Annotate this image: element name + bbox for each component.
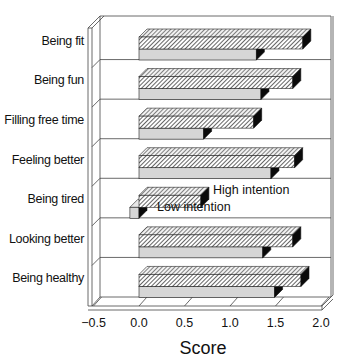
legend-low-intention: Low intention (157, 200, 231, 214)
category-label: Looking better (9, 232, 84, 246)
bar-high-intention (139, 266, 309, 286)
bar-high-intention (139, 29, 311, 49)
x-tick-label: 1.0 (221, 316, 238, 330)
category-label: Being tired (28, 192, 85, 206)
x-axis-title: Score (179, 338, 226, 358)
category-label: Being fun (34, 73, 84, 87)
category-labels: Being fitBeing funFilling free timeFeeli… (4, 34, 85, 285)
score-bar-chart: Being fitBeing funFilling free timeFeeli… (0, 0, 346, 364)
category-label: Being fit (42, 34, 85, 48)
x-tick-label: 0.0 (130, 316, 147, 330)
bar-high-intention (139, 108, 262, 128)
bar-high-intention (139, 227, 301, 247)
legend-high-intention: High intention (213, 183, 289, 197)
category-label: Being healthy (12, 271, 85, 285)
bar-high-intention (139, 148, 303, 168)
x-tick-label: 1.5 (267, 316, 284, 330)
x-tick-label: 2.0 (312, 316, 329, 330)
bar-high-intention (139, 69, 301, 89)
x-tick-label: 0.5 (176, 316, 193, 330)
x-tick-label: −0.5 (81, 316, 106, 330)
x-axis: −0.50.00.51.01.52.0Score (81, 316, 330, 358)
category-label: Feeling better (12, 153, 84, 167)
category-label: Filling free time (4, 113, 84, 127)
